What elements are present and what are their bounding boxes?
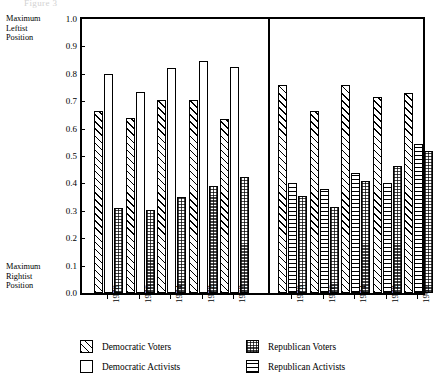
bar-group: [126, 92, 155, 293]
x-axis-tick: [233, 295, 234, 299]
bar: [177, 197, 186, 293]
y-axis-tick: [80, 46, 85, 47]
bar-group: [310, 111, 339, 293]
x-axis-tick-label: 1976: [327, 285, 337, 303]
legend-label: Democratic Activists: [102, 362, 180, 372]
x-axis-tick-label: 1976: [143, 285, 153, 303]
bar: [114, 208, 123, 293]
bar: [167, 68, 176, 293]
bar: [361, 181, 370, 293]
x-axis-tick-label: 1978: [111, 285, 121, 303]
bar: [404, 93, 413, 293]
bar-group: [189, 61, 218, 293]
y-axis-tick: [80, 211, 85, 212]
bar: [94, 111, 103, 293]
legend-swatch-checkered: [246, 340, 259, 353]
legend-label: Republican Activists: [268, 362, 345, 372]
x-axis-tick: [291, 295, 292, 299]
bar: [199, 61, 208, 293]
bar: [414, 144, 423, 293]
plot-area: [80, 17, 425, 295]
legend-label: Republican Voters: [268, 342, 336, 352]
bar: [209, 186, 218, 293]
legend-label: Democratic Voters: [102, 342, 171, 352]
y-axis-tick-label: 0.3: [66, 206, 77, 215]
bar: [393, 166, 402, 293]
x-axis-tick-label: 1969: [237, 285, 247, 303]
bar: [220, 119, 229, 293]
x-axis-tick: [170, 295, 171, 299]
legend-swatch-open-white: [80, 360, 93, 373]
y-axis-tick: [80, 266, 85, 267]
y-axis-tick: [80, 156, 85, 157]
y-axis-tick: [80, 238, 85, 239]
x-axis-tick: [107, 295, 108, 299]
x-axis-tick: [139, 295, 140, 299]
max-rightist-line-2: Rightist: [6, 272, 41, 282]
bar: [230, 67, 239, 293]
x-axis-tick-label: 1972: [390, 285, 400, 303]
bar: [320, 189, 329, 293]
bar-group: [341, 85, 370, 293]
bar: [310, 111, 319, 293]
max-leftist-line-3: Position: [6, 33, 41, 43]
bar-group: [373, 97, 402, 293]
x-axis-tick-label: 1972: [206, 285, 216, 303]
y-axis: 1.00.90.80.70.60.50.40.30.20.10.0: [52, 0, 77, 391]
max-rightist-note: Maximum Rightist Position: [6, 262, 41, 291]
legend-item: Democratic Voters: [80, 340, 171, 353]
bar: [383, 183, 392, 293]
x-axis-tick-label: 1974: [358, 285, 368, 303]
bar-group: [278, 85, 307, 293]
bar-group: [94, 74, 123, 293]
legend-swatch-diagonal-hatch: [80, 340, 93, 353]
bar: [351, 173, 360, 293]
y-axis-tick-label: 0.4: [66, 179, 77, 188]
bar: [373, 97, 382, 293]
bar: [341, 85, 350, 293]
max-leftist-note: Maximum Leftist Position: [6, 14, 41, 43]
bar: [424, 151, 433, 293]
panel-divider: [268, 19, 270, 293]
bar: [146, 210, 155, 293]
y-axis-tick-label: 0.1: [66, 261, 77, 270]
bar: [288, 183, 297, 293]
legend-item: Democratic Activists: [80, 360, 180, 373]
y-axis-tick-label: 0.7: [66, 97, 77, 106]
y-axis-tick-label: 0.8: [66, 69, 77, 78]
bar: [278, 85, 287, 293]
y-axis-tick-label: 1.0: [66, 15, 77, 24]
y-axis-tick: [80, 129, 85, 130]
bar: [136, 92, 145, 293]
x-axis-tick: [386, 295, 387, 299]
bar: [126, 118, 135, 293]
x-axis-tick: [323, 295, 324, 299]
bar: [298, 196, 307, 293]
bar-group: [220, 67, 249, 293]
x-axis-tick: [202, 295, 203, 299]
y-axis-tick-label: 0.0: [66, 289, 77, 298]
y-axis-tick-label: 0.2: [66, 234, 77, 243]
x-axis-tick-label: 1969: [421, 285, 431, 303]
y-axis-tick: [80, 101, 85, 102]
x-axis-tick: [417, 295, 418, 299]
bar: [189, 100, 198, 293]
max-leftist-line-1: Maximum: [6, 14, 41, 24]
y-axis-tick-label: 0.9: [66, 42, 77, 51]
bar-group: [157, 68, 186, 293]
legend-item: Republican Voters: [246, 340, 336, 353]
y-axis-tick-label: 0.5: [66, 152, 77, 161]
x-axis-tick-label: 1974: [174, 285, 184, 303]
x-axis-tick-label: 1978: [295, 285, 305, 303]
y-axis-tick: [80, 74, 85, 75]
bar: [104, 74, 113, 293]
y-axis-tick: [80, 183, 85, 184]
legend: Democratic VotersDemocratic ActivistsRep…: [80, 340, 428, 386]
y-axis-tick-label: 0.6: [66, 124, 77, 133]
bar: [330, 207, 339, 293]
ideological-space-bar-chart: Figure 3 Maximum Leftist Position Maximu…: [0, 0, 433, 391]
bar: [157, 100, 166, 293]
bar-group: [404, 93, 433, 293]
x-axis-tick: [354, 295, 355, 299]
bar: [240, 177, 249, 293]
